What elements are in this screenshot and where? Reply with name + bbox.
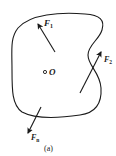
point-o-marker: [43, 70, 46, 73]
force-diagram: F1 O F2 Fn (a): [0, 0, 116, 156]
figure-caption: (a): [44, 144, 53, 153]
force-arrow-fn: [28, 107, 41, 133]
force-label-fn: Fn: [30, 133, 39, 143]
force-label-f1: F1: [43, 18, 53, 29]
force-label-f2: F2: [103, 55, 112, 65]
body-outline: [12, 13, 103, 117]
force-arrow-f2: [80, 52, 101, 93]
point-o-label: O: [49, 67, 56, 77]
